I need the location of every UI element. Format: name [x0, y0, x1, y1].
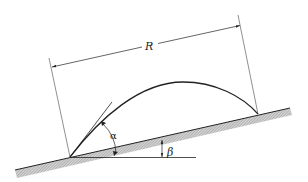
beta-label: β — [166, 146, 173, 159]
incline-ground — [15, 108, 292, 178]
range-extension-left — [49, 58, 70, 157]
range-dimension-line-right — [158, 26, 240, 44]
alpha-arrow-top-icon — [101, 121, 106, 126]
range-dimension-line-left — [52, 47, 142, 67]
alpha-label: α — [110, 130, 117, 141]
projectile-incline-diagram: R α β — [0, 0, 308, 182]
range-label: R — [144, 40, 153, 53]
incline-surface-line — [15, 108, 290, 170]
